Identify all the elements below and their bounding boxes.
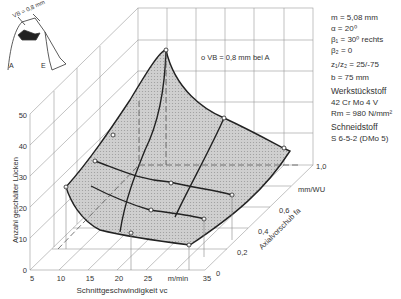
z-tick-0: 0 — [23, 266, 27, 275]
werkstueck-heading: Werkstückstoff — [331, 86, 392, 97]
schneidstoff-value: S 6-5-2 (DMo 5) — [331, 133, 392, 144]
param-alpha: α = 20⁰ — [331, 23, 392, 34]
x-axis-label: Schnittgeschwindigkeit vc — [76, 286, 167, 295]
param-z: z₁/z₂ = 25/-75 — [331, 59, 392, 70]
inset-e-label: E — [41, 62, 46, 69]
schneidstoff-heading: Schneidstoff — [331, 122, 392, 133]
x-tick-25: 25 — [144, 274, 152, 283]
param-m: m = 5,08 mm — [331, 12, 392, 23]
param-beta1: β₁ = 30⁰ rechts — [331, 34, 392, 45]
y-tick-1-0: 1,0 — [316, 162, 326, 171]
y-unit: mm/WU — [298, 185, 325, 194]
x-unit: m/min — [168, 274, 188, 283]
x-tick-10: 10 — [57, 274, 65, 283]
x-tick-5: 5 — [30, 274, 34, 283]
x-tick-35: 35 — [203, 274, 211, 283]
tool-wear-inset — [8, 14, 66, 70]
inset-a-label: A — [9, 62, 14, 69]
y-tick-0: 0 — [216, 269, 220, 278]
x-tick-20: 20 — [115, 274, 123, 283]
x-tick-15: 15 — [86, 274, 94, 283]
param-b: b = 75 mm — [331, 72, 392, 83]
z-tick-50: 50 — [19, 111, 27, 120]
param-beta2: β₂ = 0 — [331, 45, 392, 56]
z-tick-40: 40 — [19, 142, 27, 151]
rm-value: Rm = 980 N/mm² — [331, 108, 392, 119]
y-tick-0-2: 0,2 — [237, 248, 247, 257]
inset-vb-label: VB = 0,8 mm — [12, 0, 46, 19]
z-axis-label: Anzahl geschälter Lücken — [11, 157, 20, 243]
parameter-panel: m = 5,08 mm α = 20⁰ β₁ = 30⁰ rechts β₂ =… — [331, 12, 392, 144]
legend: o VB = 0,8 mm bei A — [201, 53, 270, 62]
werkstueck-value: 42 Cr Mo 4 V — [331, 97, 392, 108]
surface — [58, 48, 300, 270]
